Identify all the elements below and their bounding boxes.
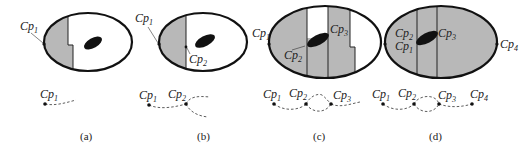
graph-node <box>147 103 151 107</box>
graph-node <box>412 102 416 106</box>
graph-label-cp3: Cp3 <box>438 88 456 104</box>
label-cp1: Cp1 <box>20 19 38 35</box>
graph-edge <box>186 104 208 117</box>
caption-d: (d) <box>429 130 442 143</box>
label-cp1: Cp1 <box>135 11 153 27</box>
graph-edge <box>331 102 360 106</box>
graph-node <box>329 102 333 106</box>
graph-edge <box>414 104 439 112</box>
graph-edge <box>306 94 331 104</box>
label-cp2: Cp2 <box>189 52 207 68</box>
graph-node <box>304 102 308 106</box>
graph-label-cp4: Cp4 <box>470 87 488 103</box>
caption-c: (c) <box>313 130 326 143</box>
graph-node <box>43 102 47 106</box>
panel-b: Cp1 Cp2 Cp1 Cp2 (b) <box>135 10 247 143</box>
graph-label-cp2: Cp2 <box>289 86 307 102</box>
graph-label-cp1: Cp1 <box>263 87 281 103</box>
graph-label-cp1: Cp1 <box>40 87 58 103</box>
graph-edge <box>414 96 439 104</box>
critical-point <box>185 46 188 49</box>
label-cp4: Cp4 <box>500 37 518 53</box>
critical-point <box>495 42 498 45</box>
panel-d: Cp2 Cp1 Cp3 Cp4 Cp1 Cp2 Cp3 Cp4 (d) <box>372 2 518 143</box>
caption-b: (b) <box>197 130 210 143</box>
graph-edge <box>186 97 210 104</box>
obstacle <box>193 31 217 50</box>
graph-label-cp2: Cp2 <box>168 87 186 103</box>
graph-node <box>437 102 441 106</box>
graph-label-cp1: Cp1 <box>372 87 390 103</box>
graph-label-cp3: Cp3 <box>333 88 351 104</box>
coverage-diagram: Cp1 Cp1 (a) Cp1 Cp2 Cp1 Cp2 (b) <box>0 0 521 151</box>
covered-region <box>150 10 186 80</box>
graph-node <box>381 102 385 106</box>
graph-label-cp1: Cp1 <box>139 88 157 104</box>
critical-point <box>383 42 386 45</box>
graph-node <box>470 102 474 106</box>
graph-edge <box>439 104 472 107</box>
graph-label-cp2: Cp2 <box>398 86 416 102</box>
panel-c: Cp1 Cp2 Cp3 Cp1 Cp2 Cp3 (c) <box>252 2 381 143</box>
graph-edge <box>274 104 306 109</box>
critical-point <box>267 42 270 45</box>
graph-edge <box>306 104 331 111</box>
leader-line <box>148 27 158 43</box>
caption-a: (a) <box>80 130 93 143</box>
graph-edge <box>149 104 186 108</box>
obstacle <box>82 34 104 53</box>
panel-a: Cp1 Cp1 (a) <box>20 10 132 143</box>
label-cp1: Cp1 <box>252 26 270 42</box>
graph-edge <box>383 104 414 109</box>
graph-node <box>272 102 276 106</box>
